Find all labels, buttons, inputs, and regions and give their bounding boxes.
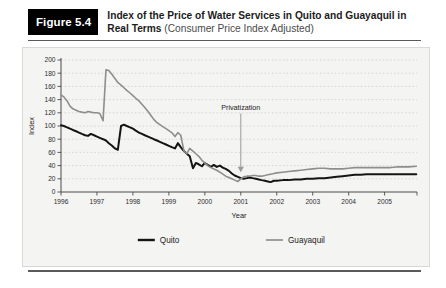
x-axis-tick-label: 1999 [162,198,177,205]
y-axis-tick-label: 40 [48,162,56,169]
figure-title: Index of the Price of Water Services in … [107,9,422,40]
x-axis-tick-label: 2001 [233,198,248,205]
series-line-quito [61,125,416,182]
legend-label-quito: Quito [160,236,180,245]
x-axis-title: Year [232,211,247,220]
x-axis-tick-label: 2005 [377,198,392,205]
y-axis-title: Index [27,117,36,135]
line-chart: 020406080100120140160180200Index19961997… [23,48,429,266]
y-axis-tick-label: 20 [48,175,56,182]
y-axis-tick-label: 80 [48,136,56,143]
x-axis-tick-label: 2000 [198,198,213,205]
x-axis-tick-label: 2004 [341,198,356,205]
y-axis-tick-label: 60 [48,149,56,156]
x-axis-tick-label: 1998 [126,198,141,205]
y-axis-tick-label: 180 [44,70,55,77]
y-axis-tick-label: 120 [44,109,55,116]
x-axis-tick-label: 2003 [305,198,320,205]
annotation-label-privatization: Privatization [221,103,260,112]
figure-title-subtitle: (Consumer Price Index Adjusted) [164,23,313,34]
footer-rule-bottom [28,270,421,272]
y-axis-tick-label: 0 [52,188,56,195]
figure-number-badge: Figure 5.4 [28,9,98,35]
figure-header: Figure 5.4 Index of the Price of Water S… [28,9,422,40]
y-axis-tick-label: 140 [44,96,55,103]
x-axis-tick-label: 2002 [269,198,284,205]
y-axis-tick-label: 100 [44,122,55,129]
chart-panel: 020406080100120140160180200Index19961997… [22,47,430,267]
y-axis-tick-label: 160 [44,83,55,90]
header-rule-top [28,40,421,41]
figure-container: Figure 5.4 Index of the Price of Water S… [0,0,446,288]
annotation-arrow-head [238,167,244,173]
y-axis-tick-label: 200 [44,56,55,63]
x-axis-tick-label: 1996 [54,198,69,205]
legend-label-guayaquil: Guayaquil [288,236,325,245]
x-axis-tick-label: 1997 [90,198,105,205]
